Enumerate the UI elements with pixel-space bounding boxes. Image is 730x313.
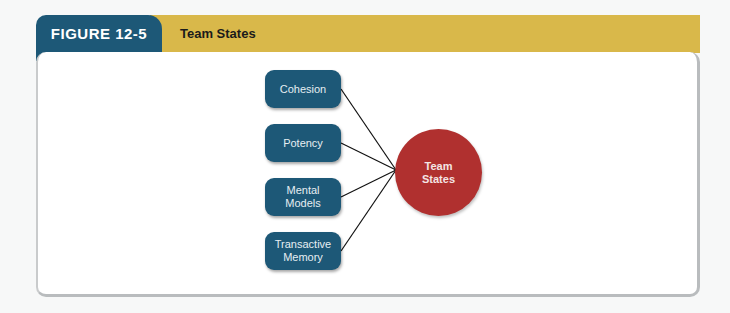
connector-potency (341, 143, 396, 170)
node-label: Potency (283, 137, 323, 150)
node-transactive-memory: TransactiveMemory (265, 232, 341, 270)
connector-cohesion (341, 89, 396, 170)
node-label: MentalModels (285, 184, 320, 210)
node-mental-models: MentalModels (265, 178, 341, 216)
team-states-circle: TeamStates (395, 129, 482, 216)
node-cohesion: Cohesion (265, 70, 341, 108)
node-label: TransactiveMemory (275, 238, 331, 264)
center-label: TeamStates (422, 160, 455, 186)
connector-transactive-memory (341, 170, 396, 251)
connector-mental-models (341, 170, 396, 197)
node-potency: Potency (265, 124, 341, 162)
connector-lines (0, 0, 730, 313)
node-label: Cohesion (280, 83, 326, 96)
